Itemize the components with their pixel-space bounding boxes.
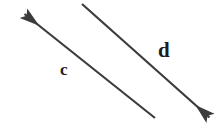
- vector-d-arrow: [82, 4, 210, 118]
- vector-c-arrow: [25, 14, 156, 118]
- vector-diagram-svg: [0, 0, 222, 129]
- vector-d-label: d: [158, 40, 170, 61]
- vector-diagram-figure: c d: [0, 0, 222, 129]
- vector-c-label: c: [60, 61, 68, 78]
